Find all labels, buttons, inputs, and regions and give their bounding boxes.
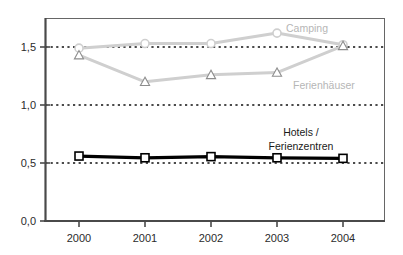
x-tick-label-2001: 2001 — [133, 232, 157, 244]
x-tick-label-2004: 2004 — [331, 232, 355, 244]
line-chart-svg: 1,5 1,0 0,5 0,0 2000 2001 2002 2003 2004… — [0, 0, 403, 255]
data-point-marker — [75, 152, 83, 160]
chart-background — [0, 0, 403, 255]
series-label-ferienhaeuser: Ferienhäuser — [293, 79, 355, 91]
data-point-marker — [339, 154, 347, 162]
y-tick-label-0-5: 0,5 — [21, 157, 36, 169]
data-point-marker — [207, 40, 215, 48]
y-tick-label-0-0: 0,0 — [21, 215, 36, 227]
series-label-hotels-line2: Ferienzentren — [269, 140, 334, 152]
y-tick-label-1-5: 1,5 — [21, 41, 36, 53]
series-label-camping: Camping — [286, 22, 328, 34]
data-point-marker — [141, 40, 149, 48]
y-tick-label-1-0: 1,0 — [21, 99, 36, 111]
chart-figure: 1,5 1,0 0,5 0,0 2000 2001 2002 2003 2004… — [0, 0, 403, 255]
x-tick-label-2002: 2002 — [199, 232, 223, 244]
data-point-marker — [141, 154, 149, 162]
data-point-marker — [273, 29, 281, 37]
series-label-hotels-line1: Hotels / — [283, 126, 319, 138]
data-point-marker — [207, 153, 215, 161]
x-tick-label-2003: 2003 — [265, 232, 289, 244]
x-tick-label-2000: 2000 — [67, 232, 91, 244]
data-point-marker — [273, 154, 281, 162]
